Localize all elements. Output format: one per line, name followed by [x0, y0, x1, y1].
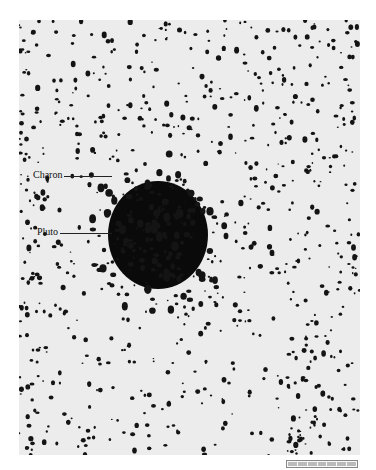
- charon-label: Charon: [33, 169, 62, 180]
- film-grain: [19, 20, 360, 455]
- scale-bar: [286, 460, 358, 468]
- pluto-charon-photograph: [19, 20, 360, 455]
- pluto-leader-line: [60, 233, 112, 234]
- charon-leader-line: [64, 176, 112, 177]
- pluto-label: Pluto: [37, 226, 58, 237]
